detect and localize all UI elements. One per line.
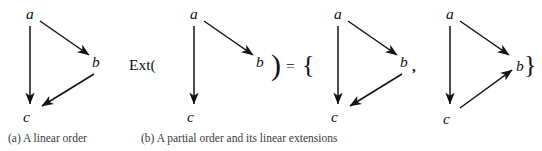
edge-a-to-b [40,21,89,55]
diagram-linear-extension-1: a b c [312,4,422,126]
node-a: a [190,6,198,22]
figure-linear-extensions: a b c (a) A linear order Ext( a [0,0,542,151]
edge-a-to-b [460,21,509,55]
node-c: c [187,109,194,125]
node-c: c [443,111,450,127]
node-b: b [92,54,100,70]
comma-label: , [412,58,416,74]
node-a: a [26,6,34,22]
edge-a-to-b [348,21,397,55]
paren-close-label: ) [271,50,281,80]
node-c: c [23,109,30,125]
diagram-linear-extension-2: a b c [424,4,534,126]
diagram-partial-order: a b c [168,4,278,126]
edge-b-to-c [350,74,402,106]
node-b: b [256,54,264,70]
brace-close-label: } [524,52,536,78]
node-b: b [516,58,524,74]
diagram-linear-order: a b c [4,4,114,126]
edge-c-to-b [460,70,512,108]
caption-panel-b: (b) A partial order and its linear exten… [141,133,337,145]
caption-panel-a: (a) A linear order [8,133,87,145]
equals-label: = [286,58,295,74]
node-a: a [446,6,454,22]
edge-b-to-c [42,74,94,106]
node-b: b [400,54,408,70]
node-c: c [331,109,338,125]
ext-open-label: Ext( [129,57,156,73]
node-a: a [334,6,342,22]
edge-a-to-b [204,21,253,55]
